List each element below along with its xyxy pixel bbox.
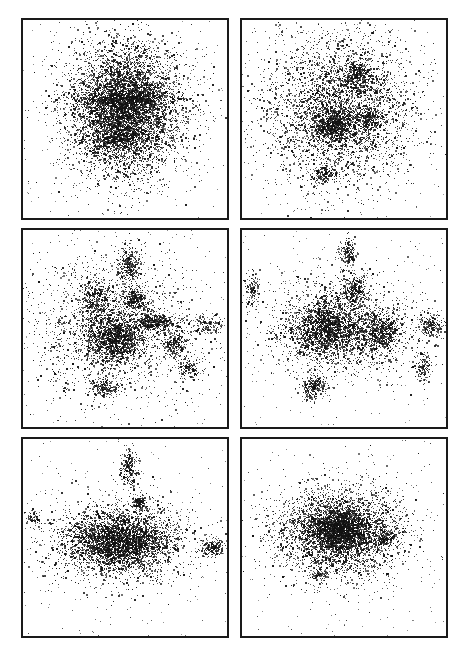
- snapshot-panel-6: [240, 437, 448, 638]
- snapshot-panel-4: [240, 228, 448, 429]
- particle-distribution: [23, 439, 227, 636]
- particle-distribution: [242, 230, 446, 427]
- snapshot-panel-1: [21, 18, 229, 220]
- particle-distribution: [242, 439, 446, 636]
- particle-distribution: [23, 20, 227, 218]
- particle-distribution: [23, 230, 227, 427]
- snapshot-panel-5: [21, 437, 229, 638]
- snapshot-panel-3: [21, 228, 229, 429]
- snapshot-panel-2: [240, 18, 448, 220]
- particle-distribution: [242, 20, 446, 218]
